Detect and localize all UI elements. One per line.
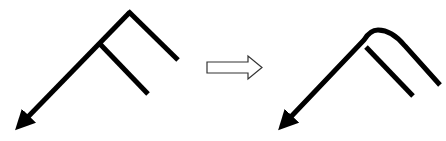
- after-branch: [366, 47, 413, 96]
- before-shape: [22, 11, 178, 123]
- before-corner-leg: [128, 11, 178, 60]
- before-branch: [100, 44, 148, 94]
- before-main-path: [22, 12, 130, 123]
- diagram-canvas: [0, 0, 446, 141]
- after-main-path: [285, 30, 440, 123]
- after-shape: [285, 30, 440, 123]
- transition-arrow-icon: [207, 56, 262, 79]
